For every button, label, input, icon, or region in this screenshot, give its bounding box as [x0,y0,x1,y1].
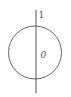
inside-label: 0 [41,50,47,60]
axis-top-label: 1 [39,10,45,20]
circle-shape [9,26,62,79]
diagram-canvas: 1 0 [0,0,71,97]
